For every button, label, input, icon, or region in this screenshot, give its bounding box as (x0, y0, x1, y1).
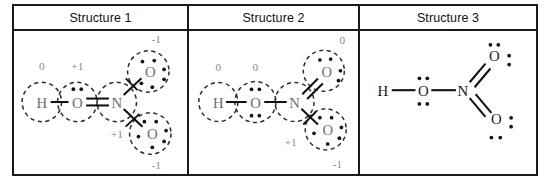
lonepair-dot (250, 87, 254, 91)
lonepair-dot (330, 116, 334, 120)
lonepair-dot (496, 43, 500, 47)
atom-n: N (289, 95, 300, 111)
lonepair-dot (338, 136, 342, 140)
atom-h: H (378, 83, 389, 99)
lonepair-dot (257, 114, 261, 118)
lonepair-dot (425, 76, 429, 80)
lonepair-dot (150, 145, 154, 149)
charge-o-center: +1 (71, 60, 83, 72)
atom-o-center: O (250, 95, 261, 111)
atom-o-top: O (489, 48, 500, 64)
bond-n-obottom (124, 109, 143, 127)
lonepair-dot (326, 142, 330, 146)
structures-table: Structure 1 Structure 2 Structure 3 (12, 4, 538, 176)
atom-h: H (213, 95, 224, 111)
bond-n-otop-upper (470, 64, 486, 83)
lonepair-dot (507, 63, 511, 67)
header-structure-2: Structure 2 (187, 6, 360, 29)
lonepair-dot (143, 120, 147, 124)
lonepair-dot (489, 43, 493, 47)
structure-2-diagram: H O N O O (189, 31, 358, 174)
atom-o-bottom: O (322, 122, 333, 138)
bond-n-otop-lower (475, 68, 491, 87)
bond-n-obottom-lower (476, 94, 492, 113)
lonepair-dot (339, 69, 343, 73)
charge-o-center: 0 (253, 61, 259, 73)
header-structure-1: Structure 1 (14, 6, 187, 29)
lonepair-dot (141, 60, 145, 64)
lonepair-dot (162, 68, 166, 72)
lonepair-dot (312, 131, 316, 135)
lonepair-dot (164, 129, 168, 133)
charge-o-bottom: -1 (152, 159, 161, 171)
lonepair-dot (137, 135, 141, 139)
lonepair-dot (257, 87, 261, 91)
lonepair-dot (250, 114, 254, 118)
lonepair-dot (340, 126, 344, 130)
atom-o-bottom: O (147, 126, 158, 142)
cell-structure-1: H O N O O (14, 31, 187, 174)
lonepair-dot (329, 57, 333, 61)
charge-n: +1 (285, 136, 297, 148)
lonepair-dot (140, 81, 144, 85)
lonepair-dot (162, 77, 166, 81)
lonepair-dot (418, 102, 422, 106)
lonepair-dot (490, 136, 494, 140)
header-structure-3-label: Structure 3 (417, 11, 479, 25)
bond-n-obottom-upper (470, 98, 486, 117)
table-header-row: Structure 1 Structure 2 Structure 3 (14, 6, 536, 31)
bond-n-otop (124, 78, 142, 95)
lonepair-dot (507, 54, 511, 58)
charge-n: +1 (111, 128, 123, 140)
lonepair-dot (509, 125, 513, 129)
lonepair-dot (337, 79, 341, 83)
charge-o-top: -1 (152, 33, 161, 45)
lonepair-dot (318, 58, 322, 62)
charge-h: 0 (216, 61, 222, 73)
bond-n-obottom-cross (126, 114, 140, 127)
lonepair-dot (318, 116, 322, 120)
lonepair-dot (150, 85, 154, 89)
atom-o-center: O (418, 83, 429, 99)
structure-1-diagram: H O N O O (14, 31, 187, 174)
lonepair-dot (72, 87, 76, 91)
atom-o-top: O (321, 64, 332, 80)
lonepair-dot (154, 120, 158, 124)
charge-o-top: 0 (340, 34, 346, 46)
table-body-row: H O N O O (14, 31, 536, 174)
atom-n: N (111, 95, 122, 111)
charge-h: 0 (39, 60, 45, 72)
lonepair-dot (152, 59, 156, 63)
lonepair-dot (162, 140, 166, 144)
lonepair-dot (509, 116, 513, 120)
lonepair-dot (498, 136, 502, 140)
cell-structure-2: H O N O O (187, 31, 360, 174)
charge-o-bottom: -1 (333, 158, 342, 170)
header-structure-2-label: Structure 2 (242, 11, 304, 25)
atom-h: H (36, 95, 47, 111)
lonepair-dot (79, 87, 83, 91)
lonepair-dot (418, 76, 422, 80)
header-structure-1-label: Structure 1 (69, 11, 131, 25)
header-structure-3: Structure 3 (360, 6, 536, 29)
atom-o-top: O (145, 64, 156, 80)
atom-n: N (457, 83, 468, 99)
structure-3-diagram: H O N O O (360, 31, 536, 174)
lonepair-dot (425, 102, 429, 106)
cell-structure-3: H O N O O (360, 31, 536, 174)
atom-o-bottom: O (491, 111, 502, 127)
atom-o-center: O (72, 95, 83, 111)
